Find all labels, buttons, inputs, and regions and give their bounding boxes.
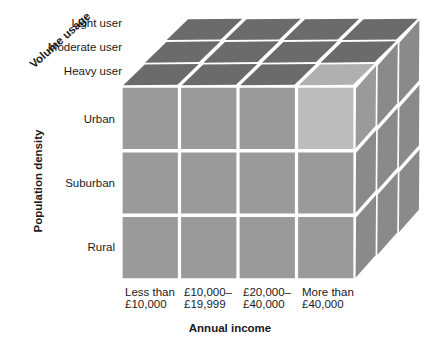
front-cell-r1-c2 (240, 152, 295, 213)
z-label-heavy-user: Heavy user (16, 65, 122, 77)
front-cell-r1-c1 (181, 152, 236, 213)
front-cell-r0-c3 (298, 88, 353, 149)
x-label-0-line1: Less than (125, 286, 175, 298)
z-label-moderate-user: Moderate user (8, 41, 122, 53)
y-label-suburban: Suburban (40, 177, 115, 189)
x-label-3-line1: More than (302, 286, 354, 298)
front-cell-r1-c0 (123, 152, 178, 213)
front-cell-r0-c1 (181, 88, 236, 149)
front-cell-r0-c2 (240, 88, 295, 149)
x-axis-title: Annual income (150, 322, 310, 334)
front-cell-r0-c0 (123, 88, 178, 149)
y-label-urban: Urban (40, 113, 115, 125)
x-label-2-line1: £20,000– (243, 286, 291, 298)
front-cell-r1-c3 (298, 152, 353, 213)
y-label-rural: Rural (40, 241, 115, 253)
front-cell-r2-c1 (181, 217, 236, 278)
x-label-2-line2: £40,000 (243, 298, 291, 310)
x-label-1-line1: £10,000– (184, 286, 232, 298)
x-label-0-line2: £10,000 (125, 298, 175, 310)
front-cell-r2-c3 (298, 217, 353, 278)
x-label-1-line2: £19,999 (184, 298, 232, 310)
cube-diagram: { "chart_data": { "type": "diagram", "ti… (0, 0, 443, 346)
x-label-3: More than £40,000 (302, 286, 354, 310)
x-label-3-line2: £40,000 (302, 298, 354, 310)
z-label-light-user: Light user (28, 17, 122, 29)
x-label-0: Less than £10,000 (125, 286, 175, 310)
front-cell-r2-c0 (123, 217, 178, 278)
front-cell-r2-c2 (240, 217, 295, 278)
x-label-2: £20,000– £40,000 (243, 286, 291, 310)
x-label-1: £10,000– £19,999 (184, 286, 232, 310)
